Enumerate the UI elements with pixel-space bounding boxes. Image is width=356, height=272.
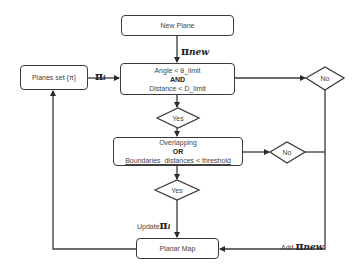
new-plane-label: New Plane xyxy=(161,21,195,30)
edge-planarmap-to-planesset xyxy=(53,91,136,249)
no1-label: No xyxy=(321,75,330,82)
no2-label: No xyxy=(283,149,292,156)
pi-new-label-top: πnew xyxy=(181,41,209,59)
update-pi-i-label: Updateπi xyxy=(137,215,170,233)
planar-map-label: Planar Map xyxy=(160,244,196,253)
overlap-boundary-condition-box: Overlapping OR Boundaries_distances < th… xyxy=(113,137,243,166)
planes-set-box: Planes set {π} xyxy=(20,65,88,90)
new-plane-box: New Plane xyxy=(121,15,234,36)
condition1-operator: AND xyxy=(170,75,185,84)
pi-i-label: πi xyxy=(95,66,106,84)
condition2-line3: Boundaries_distances < threshold xyxy=(125,156,231,165)
condition1-line3: Distance < D_limit xyxy=(149,84,206,93)
connector-lines xyxy=(0,0,356,272)
condition2-operator: OR xyxy=(173,147,184,156)
angle-distance-condition-box: Angle < θ_limit AND Distance < D_limit xyxy=(120,63,235,95)
yes2-label: Yes xyxy=(171,187,182,194)
edge-no1-to-planarmap xyxy=(220,90,325,249)
condition2-line1: Overlapping xyxy=(159,138,197,147)
condition1-line1: Angle < θ_limit xyxy=(154,66,200,75)
planar-map-box: Planar Map xyxy=(136,238,219,259)
planes-set-label: Planes set {π} xyxy=(32,73,76,82)
add-pi-new-label: Add πnew xyxy=(281,236,324,254)
yes1-label: Yes xyxy=(172,115,183,122)
